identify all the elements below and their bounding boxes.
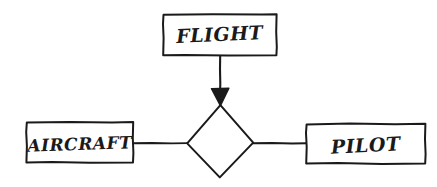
entity-pilot-label: PILOT — [329, 132, 402, 158]
entity-flight-label: FLIGHT — [175, 21, 265, 47]
entity-pilot[interactable]: PILOT — [306, 124, 426, 164]
connector-line-right — [253, 143, 307, 144]
relationship-diamond-shape — [187, 105, 253, 177]
connector-flight-to-relationship — [211, 55, 229, 106]
diagram-canvas: FLIGHT AIRCRAFT PILOT — [0, 0, 437, 187]
relationship-diamond[interactable] — [187, 105, 253, 177]
entity-flight[interactable]: FLIGHT — [163, 14, 277, 55]
connector-relationship-to-pilot — [253, 143, 307, 144]
entity-aircraft[interactable]: AIRCRAFT — [25, 122, 133, 163]
entity-aircraft-label: AIRCRAFT — [25, 132, 133, 156]
arrowhead-down-icon — [211, 88, 229, 106]
er-diagram: FLIGHT AIRCRAFT PILOT — [0, 0, 437, 187]
